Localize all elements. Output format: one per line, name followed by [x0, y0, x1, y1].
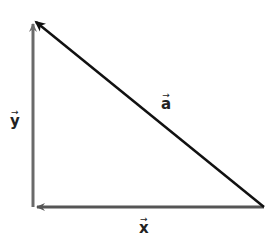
- vector-y-label: → y: [10, 114, 20, 129]
- vector-arrow-icon: →: [10, 108, 20, 117]
- vector-arrow-icon: →: [139, 215, 149, 224]
- vector-a-arrow: [36, 22, 264, 207]
- vector-x-label: → x: [139, 221, 149, 236]
- vector-a-label: → a: [161, 97, 171, 112]
- vector-arrow-icon: →: [161, 91, 171, 100]
- vector-triangle-diagram: [0, 0, 278, 241]
